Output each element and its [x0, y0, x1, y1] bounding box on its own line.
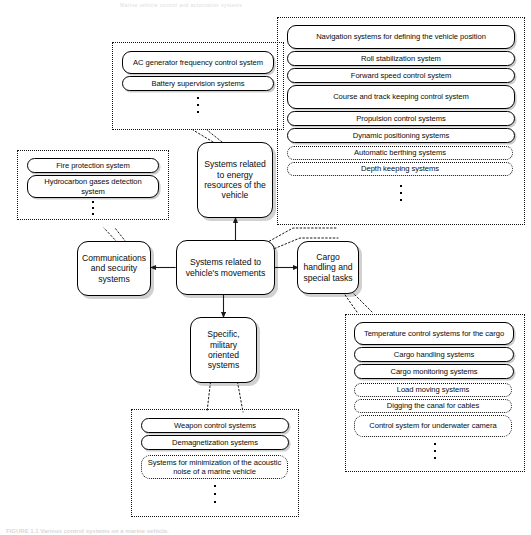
ellipsis-military-group	[213, 484, 217, 504]
group-cargo: Temperature control systems for the carg…	[345, 314, 525, 472]
item-control-system-for-underwater-camera[interactable]: Control system for underwater camera	[354, 415, 512, 437]
leader-energy-left	[193, 130, 213, 142]
group-military: Weapon control systems Demagnetization s…	[131, 409, 299, 517]
item-temperature-control-systems-for-the-cargo[interactable]: Temperature control systems for the carg…	[354, 322, 514, 345]
figure-caption: FIGURE 1.1 Various control systems on a …	[6, 528, 169, 534]
item-fire-protection-system[interactable]: Fire protection system	[27, 158, 159, 173]
item-course-and-track-keeping-control-system[interactable]: Course and track keeping control system	[287, 85, 515, 109]
ellipsis-cargo-group	[433, 442, 437, 460]
item-navigation-systems-for-defining-the-vehicle-position[interactable]: Navigation systems for defining the vehi…	[287, 25, 515, 49]
leader-cargo-right	[352, 292, 372, 312]
item-cargo-monitoring-systems[interactable]: Cargo monitoring systems	[354, 364, 514, 379]
node-military-systems-label: Specific, military oriented systems	[194, 329, 253, 371]
node-energy-systems[interactable]: Systems related to energy resources of t…	[197, 142, 273, 218]
item-forward-speed-control-system[interactable]: Forward speed control system	[287, 68, 515, 83]
item-battery-supervision-systems[interactable]: Battery supervision systems	[122, 76, 274, 91]
leader-communications-left	[104, 228, 117, 242]
node-energy-systems-label: Systems related to energy resources of t…	[201, 159, 269, 201]
ellipsis-energy-group	[196, 96, 200, 114]
node-cargo-systems-label: Cargo handling and special tasks	[301, 252, 355, 283]
node-military-systems[interactable]: Specific, military oriented systems	[190, 317, 257, 383]
item-depth-keeping-systems[interactable]: Depth keeping systems	[287, 162, 513, 176]
item-hydrocarbon-gases-detection-system[interactable]: Hydrocarbon gases detection system	[27, 175, 159, 198]
item-dynamic-positioning-systems[interactable]: Dynamic positioning systems	[287, 128, 515, 143]
figure-canvas: Marine vehicle control and automation sy…	[0, 0, 531, 535]
item-roll-stabilization-system[interactable]: Roll stabilization system	[287, 51, 515, 66]
item-cargo-handling-systems[interactable]: Cargo handling systems	[354, 347, 514, 362]
item-demagnetization-systems[interactable]: Demagnetization systems	[141, 435, 289, 450]
node-movements-systems-label: Systems related to vehicle's movements	[180, 257, 271, 278]
group-communications: Fire protection system Hydrocarbon gases…	[17, 150, 169, 220]
leader-communications-right	[115, 228, 126, 242]
item-automatic-berthing-systems[interactable]: Automatic berthing systems	[287, 146, 513, 160]
item-weapon-control-systems[interactable]: Weapon control systems	[141, 418, 289, 433]
item-systems-for-minimization-of-the-acoustic-noise-of-a-marine-vehicle[interactable]: Systems for minimization of the acoustic…	[141, 455, 288, 479]
leader-energy-right	[207, 130, 222, 142]
node-communications-systems-label: Communications and security systems	[81, 253, 147, 284]
item-propulsion-control-systems[interactable]: Propulsion control systems	[287, 111, 515, 126]
node-communications-systems[interactable]: Communications and security systems	[77, 241, 151, 296]
ellipsis-communications-group	[91, 200, 95, 216]
leader-cargo-left	[343, 292, 357, 312]
group-energy: AC generator frequency control system Ba…	[112, 42, 284, 130]
item-load-moving-systems[interactable]: Load moving systems	[354, 383, 512, 397]
page-header-artifact: Marine vehicle control and automation sy…	[120, 2, 242, 8]
item-ac-generator-frequency-control-system[interactable]: AC generator frequency control system	[122, 51, 274, 74]
group-movements: Navigation systems for defining the vehi…	[277, 17, 525, 225]
item-digging-the-canal-for-cables[interactable]: Digging the canal for cables	[354, 399, 512, 413]
ellipsis-movements-group	[399, 184, 403, 202]
node-movements-systems[interactable]: Systems related to vehicle's movements	[176, 240, 275, 295]
node-cargo-systems[interactable]: Cargo handling and special tasks	[297, 241, 359, 294]
